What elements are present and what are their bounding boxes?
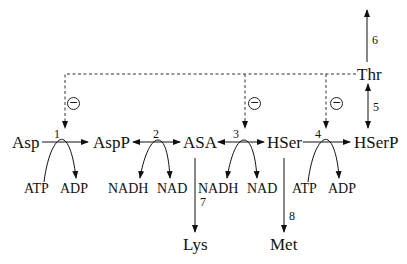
metabolite-met: Met [270,236,297,253]
reaction-label-7: 7 [200,196,206,208]
cofactor-nadh-2: NADH [108,182,148,196]
reaction-label-8: 8 [289,210,295,222]
metabolite-lys: Lys [183,236,208,253]
cofactor-atp-1: ATP [24,182,49,196]
cofactor-curve-2 [140,140,170,178]
cofactor-atp-4: ATP [292,182,317,196]
reaction-label-2: 2 [153,128,159,140]
reaction-label-3: 3 [233,128,239,140]
inhibition-lines [65,74,356,128]
reaction-label-1: 1 [54,128,60,140]
inhibition-icon: − [248,97,261,110]
cofactor-adp-1: ADP [60,182,88,196]
inhibition-icon: − [67,97,80,110]
cofactor-nadh-3: NADH [198,182,238,196]
pathway-arrows [0,0,407,264]
cofactor-curve-4 [308,139,339,182]
metabolite-thr: Thr [357,66,382,83]
metabolite-aspp: AspP [93,134,130,151]
metabolite-asp: Asp [12,134,39,151]
reaction-label-6: 6 [372,34,378,46]
metabolite-hser: HSer [267,134,302,151]
reaction-label-4: 4 [315,128,321,140]
reaction-label-5: 5 [373,101,379,113]
cofactor-nad-3: NAD [247,182,277,196]
cofactor-curve-1 [44,139,76,182]
metabolite-hserp: HSerP [354,134,398,151]
cofactor-adp-4: ADP [328,182,356,196]
cofactor-curve-3 [227,140,257,178]
inhibition-icon: − [330,97,343,110]
metabolite-asa: ASA [183,134,217,151]
cofactor-nad-2: NAD [157,182,187,196]
